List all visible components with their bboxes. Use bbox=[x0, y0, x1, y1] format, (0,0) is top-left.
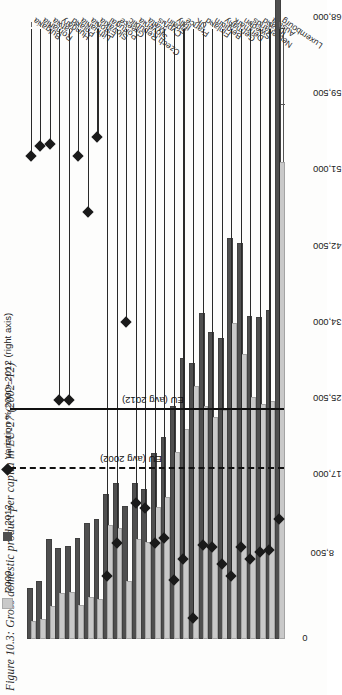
variation-connector bbox=[31, 29, 32, 156]
reference-line-eu-2002 bbox=[10, 467, 284, 469]
variation-connector bbox=[250, 29, 251, 559]
variation-connector bbox=[279, 29, 280, 519]
variation-marker bbox=[82, 206, 93, 217]
variation-connector bbox=[59, 29, 60, 400]
variation-connector bbox=[183, 29, 184, 559]
variation-connector bbox=[88, 29, 89, 212]
legend-swatch-2012-icon bbox=[3, 532, 12, 541]
legend-diamond-icon bbox=[1, 463, 14, 476]
variation-marker bbox=[120, 317, 131, 328]
variation-connector bbox=[260, 29, 261, 552]
reference-line-label: EU (avg 2012) bbox=[122, 395, 184, 406]
axis-tick-label: 25,500 bbox=[300, 391, 328, 401]
legend-swatch-2000-icon bbox=[2, 598, 13, 609]
chart-legend: 2000 2012 Variation % 2000–2012 (right a… bbox=[2, 313, 13, 609]
variation-connector bbox=[269, 29, 270, 550]
axis-tick-label: 17,000 bbox=[300, 467, 328, 477]
variation-connector bbox=[50, 29, 51, 144]
axis-tick-label: 59,500 bbox=[300, 86, 328, 96]
axis-tick-label: 8,500 bbox=[300, 546, 323, 556]
variation-connector bbox=[193, 29, 194, 618]
variation-marker bbox=[73, 150, 84, 161]
legend-item-variation: Variation % 2000–2012 (right axis) bbox=[2, 313, 13, 474]
axis-tick-label: 0 bbox=[300, 631, 305, 641]
variation-connector bbox=[231, 29, 232, 576]
variation-connector bbox=[78, 29, 79, 156]
variation-connector bbox=[136, 29, 137, 503]
variation-connector bbox=[212, 29, 213, 548]
variation-connector bbox=[222, 29, 223, 564]
legend-label-variation: Variation % 2000–2012 (right axis) bbox=[2, 313, 13, 459]
variation-connector bbox=[107, 29, 108, 576]
variation-marker bbox=[25, 150, 36, 161]
variation-connector bbox=[145, 29, 146, 508]
variation-connector bbox=[40, 29, 41, 146]
variation-connector bbox=[126, 29, 127, 322]
axis-tick-label: 51,000 bbox=[300, 162, 328, 172]
reference-line-eu-2012 bbox=[10, 408, 284, 410]
variation-connector bbox=[69, 29, 70, 400]
variation-marker bbox=[92, 131, 103, 142]
variation-marker bbox=[63, 394, 74, 405]
axis-tick-label: 34,000 bbox=[300, 315, 328, 325]
legend-item-2012: 2012 bbox=[2, 504, 13, 540]
plot-area: 08,50017,00025,50034,00042,50051,00059,5… bbox=[26, 29, 284, 639]
variation-connector bbox=[164, 29, 165, 538]
variation-marker bbox=[44, 138, 55, 149]
reference-line-label: EU (avg 2002) bbox=[100, 454, 162, 465]
legend-item-2000: 2000 bbox=[2, 571, 13, 609]
variation-connector bbox=[241, 29, 242, 548]
axis-tick-label: 68,000 bbox=[300, 10, 328, 20]
axis-tick-label: 42,500 bbox=[300, 239, 328, 249]
legend-label-2012: 2012 bbox=[2, 504, 13, 525]
variation-connector bbox=[97, 29, 98, 137]
variation-connector bbox=[174, 29, 175, 580]
legend-label-2000: 2000 bbox=[2, 571, 13, 592]
